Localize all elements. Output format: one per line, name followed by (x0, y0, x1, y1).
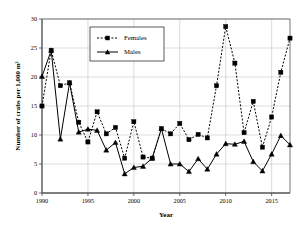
data-point-marker-square (260, 145, 264, 149)
legend-box (90, 27, 164, 61)
data-point-marker-square (132, 120, 136, 124)
data-point-marker-square (40, 104, 44, 108)
data-point-marker-square (233, 61, 237, 65)
data-point-marker-triangle (241, 139, 246, 144)
x-tick-label: 1990 (36, 197, 48, 204)
data-point-marker-square (159, 127, 163, 131)
legend-label-females: Females (124, 34, 147, 41)
y-tick-label: 25 (31, 44, 37, 51)
series-line-females (42, 27, 290, 159)
x-tick-label: 2005 (174, 197, 186, 204)
data-point-marker-square (242, 131, 246, 135)
data-point-marker-square (77, 120, 81, 124)
data-point-marker-square (251, 99, 255, 103)
data-point-marker-triangle (39, 74, 44, 79)
data-point-marker-square (168, 132, 172, 136)
data-point-marker-square (214, 84, 218, 88)
data-point-marker-square (104, 132, 108, 136)
data-point-marker-triangle (251, 159, 256, 164)
legend-label-males: Males (124, 48, 141, 55)
data-point-marker-square (123, 156, 127, 160)
y-tick-label: 10 (31, 131, 37, 138)
data-point-marker-triangle (278, 133, 283, 138)
y-tick-label: 20 (31, 73, 37, 80)
data-point-marker-square (67, 81, 71, 85)
data-point-marker-square (58, 84, 62, 88)
data-point-marker-square (49, 48, 53, 52)
y-tick-label: 0 (34, 189, 37, 196)
data-point-marker-triangle (269, 152, 274, 157)
chart-figure: 051015202530199019952000200520102015Year… (0, 0, 306, 235)
grid-lines (42, 19, 290, 193)
data-point-marker-triangle (122, 171, 127, 176)
data-point-marker-square (178, 121, 182, 125)
data-point-marker-square (270, 115, 274, 119)
x-axis-title: Year (159, 211, 173, 219)
x-tick-label: 1995 (82, 197, 94, 204)
x-tick-label: 2000 (128, 197, 140, 204)
y-tick-label: 5 (34, 160, 37, 167)
chart-legend: FemalesMales (90, 27, 164, 61)
y-tick-label: 15 (31, 102, 37, 109)
y-tick-label: 30 (31, 15, 37, 22)
data-point-marker-square (95, 110, 99, 114)
data-point-marker-triangle (58, 136, 63, 141)
data-point-marker-square (279, 70, 283, 74)
x-tick-label: 2015 (265, 197, 277, 204)
series-line-males (42, 50, 290, 174)
data-point-marker-square (86, 140, 90, 144)
data-series (39, 24, 292, 176)
data-point-marker-square (187, 138, 191, 142)
data-point-marker-triangle (113, 140, 118, 145)
data-point-marker-square (113, 125, 117, 129)
data-point-marker-square (288, 36, 292, 40)
y-axis-title: Number of crabs per 1,000 m² (14, 61, 22, 150)
data-point-marker-square (205, 136, 209, 140)
data-point-marker-square (196, 132, 200, 136)
data-point-marker-triangle (196, 156, 201, 161)
x-tick-label: 2010 (220, 197, 232, 204)
chart-canvas: 051015202530199019952000200520102015Year… (0, 0, 306, 235)
data-point-marker-square (150, 156, 154, 160)
data-point-marker-square (224, 24, 228, 28)
data-point-marker-square (141, 155, 145, 159)
legend-marker-square (105, 36, 109, 40)
